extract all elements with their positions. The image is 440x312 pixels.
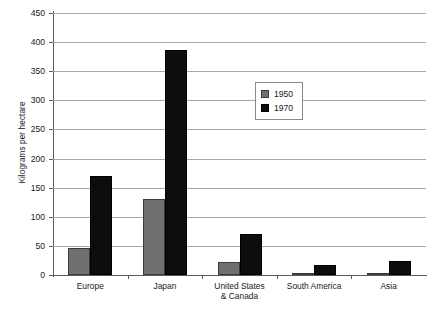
legend-item: 1970 <box>261 101 293 115</box>
legend-label: 1950 <box>274 90 293 99</box>
gridline <box>53 159 426 160</box>
x-tick-mark <box>277 275 278 279</box>
y-tick-label: 100 <box>11 213 45 222</box>
y-tick-label: 400 <box>11 38 45 47</box>
gridline <box>53 100 426 101</box>
x-axis-label-line: Japan <box>128 281 203 291</box>
bar-1970-3 <box>314 265 336 275</box>
y-tick-mark <box>49 100 53 101</box>
legend-label: 1970 <box>274 104 293 113</box>
x-axis-label: United States& Canada <box>202 281 277 301</box>
bar-chart: Kilograms per hectare 050100150200250300… <box>0 0 440 312</box>
x-axis-label: Asia <box>351 281 426 291</box>
bar-1970-4 <box>389 261 411 275</box>
gridline <box>53 42 426 43</box>
chart-legend: 19501970 <box>255 82 303 120</box>
x-axis-label: South America <box>277 281 352 291</box>
gray-swatch <box>261 90 269 98</box>
black-swatch <box>261 104 269 112</box>
x-tick-mark <box>202 275 203 279</box>
y-tick-label: 300 <box>11 96 45 105</box>
x-tick-mark <box>351 275 352 279</box>
gridline <box>53 71 426 72</box>
y-tick-mark <box>49 13 53 14</box>
y-tick-label: 150 <box>11 184 45 193</box>
x-axis-label: Europe <box>53 281 128 291</box>
bar-1970-2 <box>240 234 262 275</box>
y-tick-mark <box>49 159 53 160</box>
y-tick-mark <box>49 188 53 189</box>
y-tick-mark <box>49 42 53 43</box>
bar-1970-0 <box>90 176 112 275</box>
x-axis-label-line: Asia <box>351 281 426 291</box>
y-tick-label: 250 <box>11 125 45 134</box>
bar-1950-0 <box>68 248 90 275</box>
y-tick-label: 450 <box>11 9 45 18</box>
x-axis-label-line: Europe <box>53 281 128 291</box>
x-axis-line <box>53 275 427 276</box>
y-tick-mark <box>49 275 53 276</box>
y-tick-mark <box>49 246 53 247</box>
bar-1950-3 <box>292 273 314 275</box>
gridline <box>53 13 426 14</box>
bar-1950-2 <box>218 262 240 275</box>
x-axis-label-line: & Canada <box>202 291 277 301</box>
y-tick-mark <box>49 71 53 72</box>
legend-item: 1950 <box>261 87 293 101</box>
y-tick-label: 50 <box>11 242 45 251</box>
y-tick-label: 0 <box>11 271 45 280</box>
bar-1950-4 <box>367 273 389 275</box>
x-axis-label: Japan <box>128 281 203 291</box>
x-axis-label-line: South America <box>277 281 352 291</box>
y-tick-mark <box>49 129 53 130</box>
y-tick-label: 200 <box>11 155 45 164</box>
bar-1970-1 <box>165 50 187 275</box>
y-tick-mark <box>49 217 53 218</box>
x-axis-label-line: United States <box>202 281 277 291</box>
plot-area: 050100150200250300350400450 <box>53 13 426 275</box>
bar-1950-1 <box>143 199 165 275</box>
x-tick-mark <box>128 275 129 279</box>
gridline <box>53 129 426 130</box>
y-tick-label: 350 <box>11 67 45 76</box>
